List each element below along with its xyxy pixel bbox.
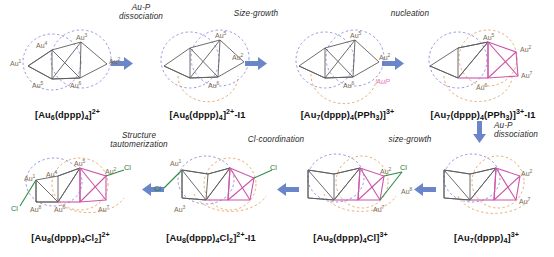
au-bonds-pink [470, 168, 520, 200]
atom-label-au2: Au2 [379, 52, 391, 61]
atom-label-au7: Au7 [519, 196, 531, 205]
atom-label-au5: Au5 [483, 32, 495, 41]
structure-au6-dppp4: Au1 Au2 Au3 Au4 Au5 Au6 [8, 22, 126, 100]
atom-label-cl-left: Cl [154, 184, 161, 193]
atom-label-au7: Au7 [98, 204, 110, 213]
atom-label-au2: Au2 [520, 44, 532, 53]
atom-label-cl-left: Cl [11, 204, 18, 213]
atom-label-au2: Au2 [521, 168, 533, 177]
atom-label-au2: Au2 [109, 56, 121, 65]
atom-label-au6: Au6 [208, 80, 220, 89]
atom-label-au3: Au3 [174, 204, 186, 213]
step-label-cl-coordination: Cl-coordination [234, 135, 318, 144]
atom-label-au6: Au6 [54, 204, 66, 213]
atom-label-au2: Au2 [380, 166, 392, 175]
dashed-circles [444, 154, 530, 213]
step-label-nucleation: nucleation [372, 9, 448, 18]
formula-au6-dppp4: [Au6(dppp)4]2+ [10, 108, 125, 122]
au-bonds-pink [334, 168, 384, 200]
step-label-size-growth-1: Size-growth [218, 9, 294, 18]
atom-label-au3: Au3 [76, 32, 88, 41]
atom-label-au7: Au7 [373, 204, 385, 213]
au-bonds-gray [444, 168, 496, 200]
atom-label-au4: Au4 [36, 40, 48, 49]
structure-au8-dppp4-cl2: Au1 Au4 Au5 Au2 Au8 Au6 Au7 Cl Cl [6, 150, 140, 226]
structure-au7-dppp4: Au2 Au7 [424, 150, 548, 226]
au-bonds-gray [182, 168, 230, 200]
arrow-down [473, 121, 486, 143]
formula-au8-dppp4-cl: [Au8(dppp)4Cl]3+ [288, 231, 413, 245]
atom-label-cl-right: Cl [270, 163, 277, 172]
atom-label-aup: AuP [375, 77, 390, 86]
atom-label-au1: Au1 [24, 173, 36, 182]
atom-label-au1: Au1 [170, 158, 182, 167]
structure-au7-dppp4-pph3-i1: Au5 Au2 Au7 Au6 [414, 20, 542, 102]
atom-label-au1: Au1 [10, 58, 22, 67]
formula-au7-dppp4-pph3-i1: [Au7(dppp)4(PPh3)]3+-I1 [412, 108, 554, 122]
atom-label-au6: Au6 [476, 82, 488, 91]
au-atom-labels: Au2 Au7 [519, 168, 533, 205]
structure-au7-dppp4-pph3: Au5 Au2 Au6 AuP [281, 22, 403, 102]
structure-au6-dppp4-i1: Au5 Au2 Au6 [146, 22, 264, 100]
reaction-scheme-figure: Au-P dissociation Size-growth nucleation… [0, 0, 554, 257]
formula-au7-dppp4-pph3: [Au7(dppp)4(PPh3)]3+ [280, 108, 415, 122]
atom-label-au5: Au5 [350, 30, 362, 39]
step-label-au-p-dissociation-1: Au-P dissociation [103, 3, 179, 22]
step-label-structure-tautomerization: Structure tautomerization [95, 131, 183, 150]
atom-label-au5: Au5 [32, 80, 44, 89]
atom-label-cl: Cl [400, 163, 407, 172]
dashed-circles [429, 30, 517, 102]
formula-au7-dppp4: [Au7(dppp)4]3+ [424, 231, 549, 245]
structure-au8-dppp4-cl2-i1: Au1 Au3 Cl Cl [150, 150, 276, 226]
au-bonds-pink [458, 42, 518, 78]
atom-label-cl-right: Cl [124, 163, 131, 172]
step-label-au-p-dissociation-2: Au-P dissociation [494, 121, 554, 140]
atom-label-au5: Au5 [74, 158, 86, 167]
atom-label-au8: Au8 [401, 186, 413, 195]
au-atom-labels: Au1 Au4 Au5 Au2 Au8 Au6 Au7 [24, 158, 117, 213]
atom-label-au6: Au6 [343, 80, 355, 89]
step-label-size-growth-2: size-growth [376, 135, 444, 144]
au-atom-labels: Au2 Au7 Au8 [373, 166, 413, 213]
au-bonds [299, 40, 379, 78]
au-atom-labels: Au5 Au2 Au7 Au6 [476, 32, 533, 91]
atom-label-au8: Au8 [30, 204, 42, 213]
formula-au8-dppp4-cl2: [Au8(dppp)4Cl2]2+ [8, 231, 133, 245]
atom-label-au2: Au2 [105, 166, 117, 175]
atom-label-au7: Au7 [521, 70, 533, 79]
au-bonds-gray [308, 168, 360, 200]
structure-au8-dppp4-cl: Au2 Au7 Au8 Cl [288, 150, 416, 226]
atom-label-au5: Au5 [215, 30, 227, 39]
formula-au8-dppp4-cl2-i1: [Au8(dppp)4Cl2]2+-I1 [146, 231, 276, 245]
formula-au6-dppp4-i1: [Au6(dppp)4]2+-I1 [145, 108, 270, 122]
au-bonds-gray [36, 168, 80, 202]
atom-label-au6: Au6 [70, 80, 82, 89]
